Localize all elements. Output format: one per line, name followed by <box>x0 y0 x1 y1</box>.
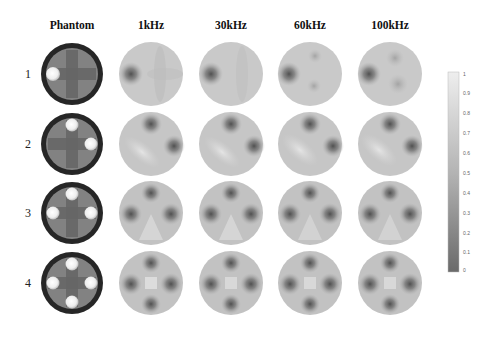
colorbar-tick-0.3: 0.3 <box>463 210 470 216</box>
colorbar-tick-0.9: 0.9 <box>463 90 470 96</box>
colorbar-tick-0.8: 0.8 <box>463 110 470 116</box>
recon-row-1-100khz <box>357 42 422 106</box>
colorbar-tick-1: 1 <box>463 71 466 77</box>
recon-row-4-30khz <box>199 251 263 315</box>
recon-row-4-1khz <box>119 251 183 315</box>
colorbar-tick-0.5: 0.5 <box>463 170 470 176</box>
phantom-row-4 <box>41 252 103 314</box>
image-grid <box>0 0 495 337</box>
recon-row-3-1khz <box>119 181 183 245</box>
recon-row-3-30khz <box>199 181 263 245</box>
recon-row-2-30khz <box>199 112 265 176</box>
colorbar-tick-0.6: 0.6 <box>463 150 470 156</box>
recon-row-4-60khz <box>278 251 342 315</box>
phantom-row-2 <box>41 113 103 175</box>
colorbar-tick-0.4: 0.4 <box>463 190 470 196</box>
recon-row-2-60khz <box>277 112 344 176</box>
colorbar-tick-0: 0 <box>463 267 466 273</box>
colorbar-tick-0.7: 0.7 <box>463 130 470 136</box>
recon-row-1-1khz <box>119 42 183 106</box>
recon-row-3-100khz <box>358 181 422 245</box>
recon-row-1-60khz <box>277 42 342 106</box>
phantom-row-1 <box>41 43 103 105</box>
recon-row-3-60khz <box>278 181 342 245</box>
colorbar-tick-0.2: 0.2 <box>463 230 470 236</box>
colorbar-tick-0.1: 0.1 <box>463 249 470 255</box>
recon-row-4-100khz <box>358 251 422 315</box>
phantom-row-3 <box>41 182 103 244</box>
recon-row-2-100khz <box>356 112 423 176</box>
recon-row-1-30khz <box>199 42 263 106</box>
recon-row-2-1khz <box>119 112 185 176</box>
colorbar <box>448 72 459 272</box>
